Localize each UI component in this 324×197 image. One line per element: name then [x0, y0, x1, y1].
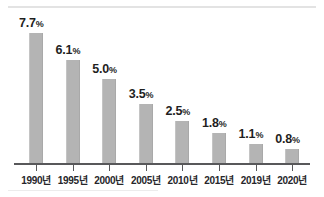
bar-2019년	[249, 144, 263, 163]
x-axis-label-2000년: 2000년	[94, 172, 124, 187]
x-axis-tick-2005년	[146, 165, 147, 171]
percent-sign: %	[182, 107, 190, 117]
bar-value-label-1995년: 6.1%	[56, 44, 81, 57]
x-axis-tick-2015년	[219, 165, 220, 171]
bar-value-number: 7.7	[19, 16, 36, 30]
x-axis-tick-2010년	[182, 165, 183, 171]
bar-2000년	[102, 79, 116, 163]
x-axis-label-1990년: 1990년	[21, 172, 51, 187]
percent-sign: %	[146, 90, 154, 100]
x-axis-tick-2019년	[256, 165, 257, 171]
bar-value-label-2019년: 1.1%	[239, 128, 264, 141]
bar-value-number: 3.5	[129, 87, 146, 101]
percent-sign: %	[255, 130, 263, 140]
x-axis-label-2015년: 2015년	[204, 172, 234, 187]
x-axis-tick-2020년	[292, 165, 293, 171]
x-axis-tick-1995년	[73, 165, 74, 171]
bar-value-number: 5.0	[92, 62, 109, 76]
bar-1990년	[29, 33, 43, 163]
bar-value-label-2005년: 3.5%	[129, 88, 154, 101]
bar-value-number: 1.8	[202, 116, 219, 130]
bar-value-label-2010년: 2.5%	[165, 105, 190, 118]
bar-value-number: 0.8	[275, 132, 292, 146]
chart-figure: 7.7%1990년6.1%1995년5.0%2000년3.5%2005년2.5%…	[0, 0, 324, 197]
percent-sign: %	[36, 19, 44, 29]
x-axis-label-2019년: 2019년	[241, 172, 271, 187]
bar-value-label-2000년: 5.0%	[92, 63, 117, 76]
x-axis-label-2020년: 2020년	[277, 172, 307, 187]
bar-value-number: 6.1	[56, 43, 73, 57]
bar-2005년	[139, 104, 153, 163]
bar-2015년	[212, 133, 226, 163]
percent-sign: %	[109, 65, 117, 75]
bar-2010년	[175, 121, 189, 163]
bar-value-number: 2.5	[165, 104, 182, 118]
x-axis-label-2005년: 2005년	[131, 172, 161, 187]
x-axis-label-2010년: 2010년	[168, 172, 198, 187]
bar-value-label-2020년: 0.8%	[275, 133, 300, 146]
bar-2020년	[285, 149, 299, 163]
x-axis-line	[14, 163, 310, 165]
bar-1995년	[66, 60, 80, 163]
bar-value-number: 1.1	[239, 127, 256, 141]
percent-sign: %	[72, 46, 80, 56]
bar-value-label-1990년: 7.7%	[19, 17, 44, 30]
x-axis-tick-2000년	[109, 165, 110, 171]
plot-area: 7.7%1990년6.1%1995년5.0%2000년3.5%2005년2.5%…	[0, 0, 324, 197]
x-axis-tick-1990년	[36, 165, 37, 171]
x-axis-label-1995년: 1995년	[58, 172, 88, 187]
bar-value-label-2015년: 1.8%	[202, 117, 227, 130]
percent-sign: %	[292, 135, 300, 145]
percent-sign: %	[219, 119, 227, 129]
